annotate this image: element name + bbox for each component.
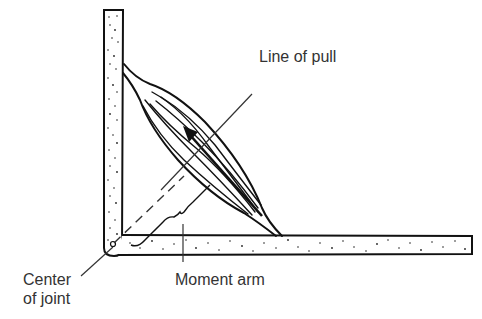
force-arrow-icon [183, 126, 262, 216]
center-of-joint-label-line1: Center [23, 270, 71, 289]
center-of-joint-label-line2: of joint [23, 289, 70, 308]
line-of-pull-label: Line of pull [259, 47, 336, 66]
moment-arm-dashed-line [114, 176, 184, 243]
vertical-bone [104, 10, 123, 256]
center-of-joint-leader [81, 247, 113, 276]
moment-arm-label: Moment arm [175, 270, 265, 289]
horizontal-bone [118, 235, 472, 255]
